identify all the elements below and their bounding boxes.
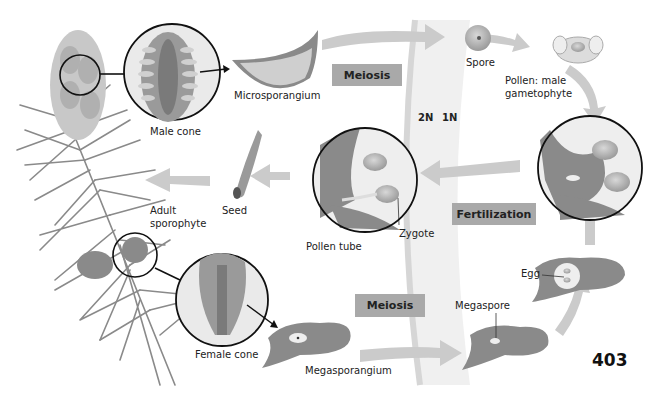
- pollen-grain: [553, 36, 603, 63]
- adult-sporophyte-label-line1: Adult: [150, 205, 176, 217]
- microsporangium-illustration: [232, 30, 318, 88]
- spore-label: Spore: [466, 57, 495, 69]
- pollen-tube-label: Pollen tube: [306, 241, 362, 253]
- seed-label: Seed: [222, 205, 247, 217]
- pollen-label-line1: Pollen: male: [505, 75, 566, 87]
- haploid-label: 1N: [442, 112, 457, 123]
- megaspore-label: Megaspore: [455, 300, 510, 312]
- megaspore-illustration: [462, 313, 548, 370]
- microsporangium-label: Microsporangium: [234, 90, 320, 102]
- diploid-label: 2N: [418, 112, 433, 123]
- megasporangium-label: Megasporangium: [305, 365, 392, 377]
- adult-sporophyte-label-line2: sporophyte: [150, 218, 206, 230]
- meiosis-female-label: Meiosis: [355, 294, 425, 317]
- zygote-label: Zygote: [399, 228, 434, 240]
- female-cone-label: Female cone: [195, 349, 258, 361]
- megasporangium-illustration: [262, 323, 351, 368]
- spore-cell: [465, 25, 491, 51]
- male-cone-on-tree: [50, 30, 106, 140]
- meiosis-male-label: Meiosis: [332, 64, 402, 86]
- fertilization-label: Fertilization: [452, 203, 536, 225]
- egg-label: Egg: [521, 268, 540, 280]
- male-cone-zoom: [100, 24, 230, 122]
- pollination-zoom: [538, 116, 642, 220]
- pollen-label-line2: gametophyte: [505, 88, 572, 100]
- page-number: 403: [592, 350, 628, 370]
- seed-illustration: [233, 130, 262, 199]
- female-cone-zoom: [155, 253, 278, 346]
- pollen-tube-zoom: [313, 128, 417, 232]
- male-cone-label: Male cone: [150, 126, 201, 138]
- diagram-artwork: [0, 0, 655, 410]
- pine-life-cycle-diagram: Meiosis Meiosis Fertilization 2N 1N Male…: [0, 0, 655, 410]
